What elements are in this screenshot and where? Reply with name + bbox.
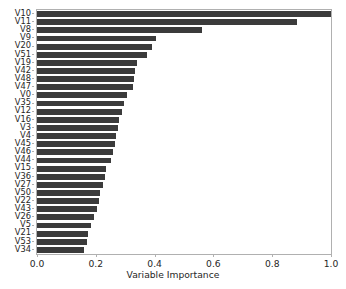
bar-row: [37, 239, 331, 245]
bar-v51: [37, 52, 147, 58]
bar-v12: [37, 109, 122, 115]
y-tick-mark: [32, 21, 35, 22]
y-tick-mark: [32, 151, 35, 152]
y-tick-mark: [32, 200, 35, 201]
y-tick-mark: [32, 208, 35, 209]
y-tick-mark: [32, 216, 35, 217]
bar-row: [37, 52, 331, 58]
y-tick-mark: [32, 111, 35, 112]
bar-row: [37, 182, 331, 188]
x-tick-mark: [272, 254, 273, 257]
bar-v48: [37, 76, 134, 82]
bar-v4: [37, 133, 116, 139]
bar-v34: [37, 247, 84, 253]
bar-row: [37, 174, 331, 180]
y-tick-mark: [32, 78, 35, 79]
y-tick-mark: [32, 62, 35, 63]
y-tick-mark: [32, 168, 35, 169]
variable-importance-chart: V10V11V8V9V20V51V19V42V48V47V0V35V12V16V…: [0, 0, 346, 289]
bar-v3: [37, 125, 118, 131]
bar-row: [37, 206, 331, 212]
bars-layer: [37, 10, 331, 254]
bar-row: [37, 11, 331, 17]
bar-row: [37, 92, 331, 98]
bar-v22: [37, 198, 99, 204]
x-axis-title: Variable Importance: [0, 269, 346, 280]
bar-row: [37, 101, 331, 107]
y-tick-mark: [32, 241, 35, 242]
y-tick-mark: [32, 70, 35, 71]
x-tick-mark: [96, 254, 97, 257]
bar-v26: [37, 214, 94, 220]
bar-v21: [37, 231, 88, 237]
bar-row: [37, 198, 331, 204]
bar-v46: [37, 149, 113, 155]
bar-row: [37, 76, 331, 82]
bar-row: [37, 214, 331, 220]
bar-v8: [37, 27, 202, 33]
bar-v11: [37, 19, 297, 25]
bar-row: [37, 60, 331, 66]
x-tick-label-0-8: 0.8: [265, 258, 280, 269]
bar-row: [37, 19, 331, 25]
bar-v47: [37, 84, 133, 90]
bar-v42: [37, 68, 135, 74]
bar-v50: [37, 190, 100, 196]
y-tick-label-v34: V34: [15, 245, 31, 253]
bar-row: [37, 44, 331, 50]
plot-area: [36, 9, 332, 255]
bar-v27: [37, 182, 103, 188]
bar-row: [37, 133, 331, 139]
y-tick-mark: [32, 135, 35, 136]
y-tick-mark: [32, 225, 35, 226]
bar-row: [37, 68, 331, 74]
y-tick-mark: [32, 233, 35, 234]
x-tick-mark: [37, 254, 38, 257]
y-tick-mark: [32, 37, 35, 38]
bar-v53: [37, 239, 87, 245]
bar-row: [37, 149, 331, 155]
y-tick-mark: [32, 159, 35, 160]
y-tick-mark: [32, 86, 35, 87]
bar-row: [37, 117, 331, 123]
x-tick-label-0-6: 0.6: [206, 258, 221, 269]
bar-row: [37, 141, 331, 147]
bar-v19: [37, 60, 137, 66]
bar-row: [37, 166, 331, 172]
x-tick-label-1-0: 1.0: [324, 258, 339, 269]
y-tick-mark: [32, 54, 35, 55]
bar-row: [37, 36, 331, 42]
y-tick-mark: [32, 94, 35, 95]
y-tick-mark: [32, 143, 35, 144]
bar-v44: [37, 158, 111, 164]
bar-row: [37, 247, 331, 253]
y-tick-mark: [32, 29, 35, 30]
bar-v10: [37, 11, 331, 17]
x-tick-mark: [155, 254, 156, 257]
y-tick-mark: [32, 192, 35, 193]
bar-v36: [37, 174, 105, 180]
y-tick-mark: [32, 46, 35, 47]
bar-v0: [37, 92, 127, 98]
bar-v20: [37, 44, 152, 50]
bar-v43: [37, 206, 97, 212]
x-tick-mark: [213, 254, 214, 257]
bar-row: [37, 223, 331, 229]
bar-v5: [37, 223, 91, 229]
x-tick-label-0-0: 0.0: [30, 258, 45, 269]
y-tick-mark: [32, 249, 35, 250]
bar-row: [37, 109, 331, 115]
x-tick-label-0-4: 0.4: [147, 258, 162, 269]
y-tick-mark: [32, 119, 35, 120]
bar-v35: [37, 101, 124, 107]
bar-row: [37, 27, 331, 33]
bar-row: [37, 231, 331, 237]
y-tick-mark: [32, 176, 35, 177]
bar-row: [37, 158, 331, 164]
bar-row: [37, 84, 331, 90]
x-tick-label-0-2: 0.2: [88, 258, 103, 269]
x-tick-mark: [331, 254, 332, 257]
bar-row: [37, 125, 331, 131]
bar-row: [37, 190, 331, 196]
bar-v9: [37, 36, 156, 42]
